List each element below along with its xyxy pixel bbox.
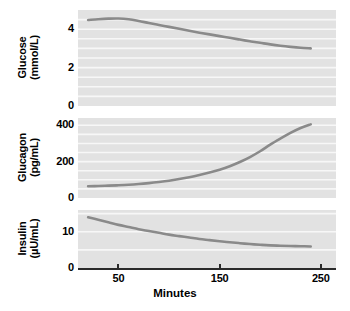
y-tick-label-glucose: 4 — [68, 22, 74, 34]
x-tick-mark — [117, 264, 119, 269]
y-axis-label-line1: Insulin — [16, 221, 28, 255]
y-axis-label-insulin: Insulin (µU/mL) — [17, 190, 40, 288]
y-tick-label-glucagon: 400 — [56, 118, 74, 130]
y-tick-label-glucose: 2 — [68, 61, 74, 73]
plot-area-insulin — [78, 210, 336, 268]
x-axis-label: Minutes — [0, 287, 350, 299]
panel-insulin: Insulin (µU/mL) — [0, 0, 350, 311]
x-tick-label: 250 — [291, 272, 350, 284]
x-tick-mark — [219, 264, 221, 269]
y-tick-label-insulin: 0 — [68, 261, 74, 273]
plot-svg-insulin — [78, 210, 336, 268]
x-tick-mark — [320, 264, 322, 269]
y-tick-label-glucagon: 0 — [68, 191, 74, 203]
figure: Glucose (mmol/L) Glucagon (pg/mL) Insuli… — [0, 0, 350, 311]
y-tick-label-glucagon: 200 — [56, 155, 74, 167]
y-tick-label-insulin: 10 — [62, 225, 74, 237]
x-tick-label: 150 — [190, 272, 250, 284]
x-tick-label: 50 — [88, 272, 148, 284]
y-axis-label-line2: (µU/mL) — [28, 190, 40, 288]
y-tick-label-glucose: 0 — [68, 99, 74, 111]
